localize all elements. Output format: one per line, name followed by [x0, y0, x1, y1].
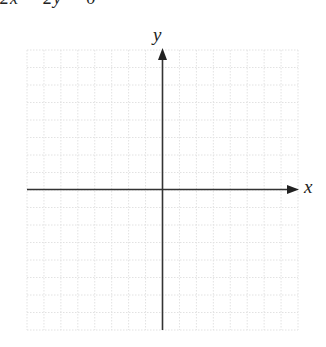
coordinate-grid: [0, 0, 326, 347]
y-axis-label: y: [153, 24, 161, 46]
x-axis-label: x: [304, 176, 312, 198]
x-axis-arrow-icon: [287, 185, 299, 194]
